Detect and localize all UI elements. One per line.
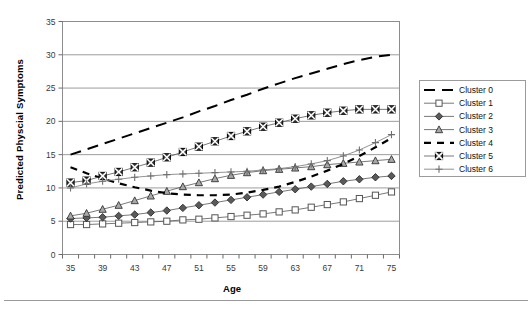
svg-text:5: 5 [51,216,56,226]
svg-text:35: 35 [46,17,56,27]
legend-item-label: Cluster 4 [459,138,493,148]
legend-item-label: Cluster 1 [459,98,493,108]
svg-text:20: 20 [46,116,56,126]
legend-item-label: Cluster 6 [459,164,493,174]
line-chart-plot: 05101520253035 3539434751555963677175 Cl… [0,0,532,309]
svg-text:55: 55 [226,263,236,273]
svg-text:51: 51 [194,263,204,273]
svg-text:39: 39 [98,263,108,273]
svg-text:0: 0 [51,250,56,260]
svg-text:10: 10 [46,183,56,193]
svg-text:63: 63 [290,263,300,273]
svg-text:67: 67 [323,263,333,273]
legend-item-label: Cluster 3 [459,125,493,135]
svg-text:75: 75 [387,263,397,273]
x-axis-ticks: 3539434751555963677175 [63,255,400,273]
legend-item-label: Cluster 0 [459,85,493,95]
chart-figure: Predicted Physcial Symptoms Age [0,0,532,309]
svg-text:47: 47 [162,263,172,273]
svg-text:15: 15 [46,150,56,160]
svg-text:25: 25 [46,83,56,93]
legend-item-label: Cluster 2 [459,111,493,121]
svg-text:30: 30 [46,50,56,60]
y-axis-ticks: 05101520253035 [46,17,62,260]
svg-text:71: 71 [355,263,365,273]
svg-text:43: 43 [130,263,140,273]
svg-text:59: 59 [258,263,268,273]
legend-item-label: Cluster 5 [459,151,493,161]
figure-bottom-rule [4,300,528,301]
svg-text:35: 35 [66,263,76,273]
